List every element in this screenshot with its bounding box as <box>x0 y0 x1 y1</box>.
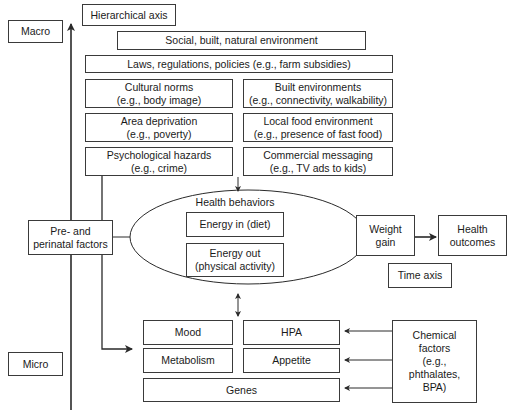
commercial-messaging-box: Commercial messaging (e.g., TV ads to ki… <box>243 147 393 176</box>
energy-in-box: Energy in (diet) <box>186 212 284 237</box>
hpa-text: HPA <box>281 326 302 339</box>
health-outcomes-line2: outcomes <box>450 236 496 249</box>
micro-text: Micro <box>23 358 49 371</box>
energy-out-box: Energy out (physical activity) <box>186 243 284 277</box>
macro-label: Macro <box>8 20 63 43</box>
hierarchical-axis-label: Hierarchical axis <box>82 4 176 26</box>
laws-policies-box: Laws, regulations, policies (e.g., farm … <box>85 55 393 73</box>
weight-gain-line1: Weight <box>369 223 402 236</box>
energy-in-text: Energy in (diet) <box>199 218 270 231</box>
psychological-hazards-box: Psychological hazards (e.g., crime) <box>85 147 233 176</box>
time-axis-text: Time axis <box>398 269 443 282</box>
macro-text: Macro <box>21 25 50 38</box>
hpa-box: HPA <box>243 320 340 345</box>
health-behaviors-text: Health behaviors <box>196 196 275 208</box>
health-outcomes-line1: Health <box>457 223 487 236</box>
built-environments-title: Built environments <box>275 81 361 94</box>
local-food-title: Local food environment <box>263 115 372 128</box>
chemical-line5: BPA) <box>423 381 447 394</box>
perinatal-line1: Pre- and <box>50 225 90 238</box>
chemical-line3: (e.g., <box>423 355 447 368</box>
cultural-norms-title: Cultural norms <box>125 81 193 94</box>
perinatal-line2: perinatal factors <box>33 238 108 251</box>
weight-gain-line2: gain <box>376 236 396 249</box>
metabolism-text: Metabolism <box>161 354 215 367</box>
chemical-line4: phthalates, <box>409 368 460 381</box>
energy-out-line1: Energy out <box>210 247 261 260</box>
laws-policies-text: Laws, regulations, policies (e.g., farm … <box>127 58 351 71</box>
perinatal-factors-box: Pre- and perinatal factors <box>28 220 113 255</box>
psych-hazards-example: (e.g., crime) <box>131 162 187 175</box>
weight-gain-box: Weight gain <box>356 215 415 256</box>
area-deprivation-example: (e.g., poverty) <box>127 128 192 141</box>
built-environments-example: (e.g., connectivity, walkability) <box>249 94 387 107</box>
appetite-box: Appetite <box>243 348 340 373</box>
cultural-norms-box: Cultural norms (e.g., body image) <box>85 79 233 108</box>
area-deprivation-box: Area deprivation (e.g., poverty) <box>85 113 233 142</box>
psych-hazards-title: Psychological hazards <box>107 149 211 162</box>
mood-text: Mood <box>175 326 201 339</box>
micro-label: Micro <box>8 352 63 376</box>
time-axis-label: Time axis <box>388 263 452 288</box>
social-environment-text: Social, built, natural environment <box>165 34 317 47</box>
health-outcomes-box: Health outcomes <box>438 215 507 256</box>
local-food-environment-box: Local food environment (e.g., presence o… <box>243 113 393 142</box>
chemical-factors-box: Chemical factors (e.g., phthalates, BPA) <box>392 320 477 403</box>
commercial-example: (e.g., TV ads to kids) <box>270 162 367 175</box>
commercial-title: Commercial messaging <box>263 149 373 162</box>
chemical-line2: factors <box>419 342 451 355</box>
local-food-example: (e.g., presence of fast food) <box>254 128 382 141</box>
appetite-text: Appetite <box>272 354 311 367</box>
hierarchical-axis-text: Hierarchical axis <box>90 9 167 22</box>
cultural-norms-example: (e.g., body image) <box>117 94 202 107</box>
social-environment-box: Social, built, natural environment <box>117 31 366 50</box>
mood-box: Mood <box>143 320 233 345</box>
genes-box: Genes <box>143 378 340 402</box>
area-deprivation-title: Area deprivation <box>121 115 197 128</box>
metabolism-box: Metabolism <box>143 348 233 373</box>
chemical-line1: Chemical <box>413 329 457 342</box>
health-behaviors-title: Health behaviors <box>180 196 290 208</box>
energy-out-line2: (physical activity) <box>195 260 275 273</box>
built-environments-box: Built environments (e.g., connectivity, … <box>243 79 393 108</box>
genes-text: Genes <box>226 384 257 397</box>
